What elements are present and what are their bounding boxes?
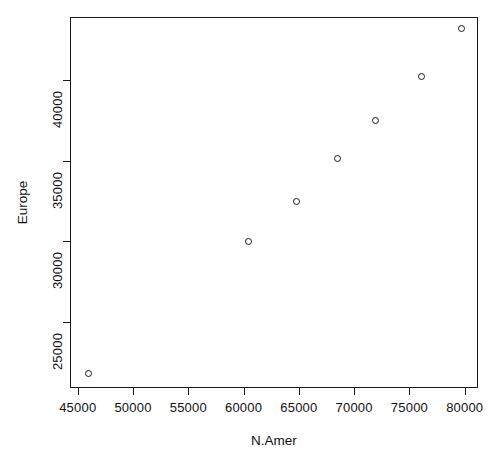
y-axis-title: Europe <box>15 17 30 388</box>
x-axis-title: N.Amer <box>70 433 478 448</box>
x-tick-70000 <box>354 388 355 395</box>
y-tick-label-30000: 30000 <box>50 241 65 301</box>
x-tick-60000 <box>244 388 245 395</box>
scatter-plot-figure: 4500050000550006000065000700007500080000… <box>0 0 494 458</box>
x-tick-75000 <box>409 388 410 395</box>
plot-frame <box>70 17 478 388</box>
x-tick-label-70000: 70000 <box>324 400 384 415</box>
y-tick-label-40000: 40000 <box>50 79 65 139</box>
x-tick-label-50000: 50000 <box>103 400 163 415</box>
data-point <box>245 238 252 245</box>
x-tick-65000 <box>299 388 300 395</box>
x-tick-label-60000: 60000 <box>214 400 274 415</box>
x-tick-45000 <box>78 388 79 395</box>
x-tick-label-45000: 45000 <box>48 400 108 415</box>
x-tick-label-75000: 75000 <box>379 400 439 415</box>
x-tick-label-80000: 80000 <box>435 400 494 415</box>
x-tick-label-55000: 55000 <box>158 400 218 415</box>
data-point <box>372 117 379 124</box>
x-tick-50000 <box>133 388 134 395</box>
x-tick-label-65000: 65000 <box>269 400 329 415</box>
y-tick-label-25000: 25000 <box>50 321 65 381</box>
data-point <box>458 25 465 32</box>
x-tick-55000 <box>188 388 189 395</box>
x-tick-80000 <box>465 388 466 395</box>
y-tick-label-35000: 35000 <box>50 160 65 220</box>
